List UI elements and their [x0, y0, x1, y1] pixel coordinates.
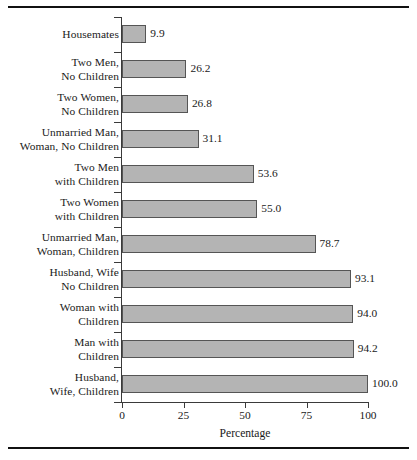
- bar[interactable]: [122, 95, 188, 113]
- category-label: Unmarried Man,Woman, Children: [37, 227, 119, 262]
- y-axis-tick: [114, 52, 121, 53]
- bar-row: Man withChildren94.2: [0, 332, 417, 367]
- bar-track: 100.0: [122, 367, 417, 402]
- bar-value-label: 94.2: [354, 339, 378, 357]
- x-axis-tick: [122, 402, 123, 408]
- bar-value-label: 55.0: [257, 199, 281, 217]
- x-axis-tick-label: 50: [239, 409, 250, 422]
- x-axis-tick: [184, 402, 185, 408]
- category-label-line: Unmarried Man,: [42, 231, 119, 244]
- bar-rows: Housemates9.9Two Men,No Children26.2Two …: [0, 17, 417, 402]
- bar-chart-plot: Housemates9.9Two Men,No Children26.2Two …: [0, 0, 417, 460]
- bar-track: 94.0: [122, 297, 417, 332]
- category-label-line: Husband, Wife: [49, 266, 119, 279]
- bar-row: Husband,Wife, Children100.0: [0, 367, 417, 402]
- category-label-line: Two Men: [74, 161, 119, 174]
- bar-track: 55.0: [122, 192, 417, 227]
- category-label: Woman withChildren: [60, 297, 119, 332]
- x-axis-tick-label: 75: [301, 409, 312, 422]
- x-axis-tick: [245, 402, 246, 408]
- y-axis-tick: [114, 227, 121, 228]
- category-label-line: Woman, No Children: [20, 140, 119, 153]
- bar-track: 31.1: [122, 122, 417, 157]
- bar-value-label: 78.7: [316, 234, 340, 252]
- category-label: Unmarried Man,Woman, No Children: [20, 122, 119, 157]
- category-label: Two Women,No Children: [57, 87, 119, 122]
- bar-value-label: 93.1: [351, 269, 375, 287]
- bar-track: 26.8: [122, 87, 417, 122]
- bar-row: Two Women,No Children26.8: [0, 87, 417, 122]
- bar[interactable]: [122, 235, 316, 253]
- y-axis-tick: [114, 262, 121, 263]
- bar-row: Two Womenwith Children55.0: [0, 192, 417, 227]
- bar-value-label: 26.2: [186, 59, 210, 77]
- bar-row: Husband, WifeNo Children93.1: [0, 262, 417, 297]
- bar-value-label: 9.9: [146, 24, 164, 42]
- y-axis-tick: [114, 17, 121, 18]
- category-label-line: Man with: [74, 336, 119, 349]
- bar-track: 53.6: [122, 157, 417, 192]
- category-label-line: with Children: [55, 175, 119, 188]
- bar-row: Two Men,No Children26.2: [0, 52, 417, 87]
- bar-track: 78.7: [122, 227, 417, 262]
- bar-row: Unmarried Man,Woman, No Children31.1: [0, 122, 417, 157]
- bar[interactable]: [122, 130, 199, 148]
- category-label-line: Woman, Children: [37, 245, 119, 258]
- bar-track: 26.2: [122, 52, 417, 87]
- bar-track: 93.1: [122, 262, 417, 297]
- category-label: Husband, WifeNo Children: [49, 262, 119, 297]
- category-label-line: Children: [78, 315, 119, 328]
- y-axis-tick: [114, 157, 121, 158]
- bar[interactable]: [122, 340, 354, 358]
- category-label: Man withChildren: [74, 332, 119, 367]
- category-label: Housemates: [62, 17, 119, 52]
- y-axis-tick: [114, 332, 121, 333]
- bar-track: 94.2: [122, 332, 417, 367]
- x-axis-tick-label: 100: [359, 409, 376, 422]
- bar[interactable]: [122, 25, 146, 43]
- y-axis-tick: [114, 402, 121, 403]
- bar-row: Two Menwith Children53.6: [0, 157, 417, 192]
- category-label-line: Wife, Children: [50, 385, 119, 398]
- category-label-line: Housemates: [62, 28, 119, 41]
- bar-value-label: 31.1: [199, 129, 223, 147]
- y-axis-tick: [114, 192, 121, 193]
- y-axis-tick: [114, 297, 121, 298]
- bar-value-label: 94.0: [353, 304, 377, 322]
- x-axis-tick: [307, 402, 308, 408]
- category-label-line: No Children: [61, 105, 119, 118]
- category-label-line: No Children: [61, 280, 119, 293]
- bar-row: Unmarried Man,Woman, Children78.7: [0, 227, 417, 262]
- x-axis-label: Percentage: [122, 427, 368, 440]
- bar-row: Woman withChildren94.0: [0, 297, 417, 332]
- category-label-line: Children: [78, 350, 119, 363]
- category-label-line: Husband,: [75, 371, 119, 384]
- x-axis-tick-label: 0: [119, 409, 125, 422]
- category-label-line: Unmarried Man,: [42, 126, 119, 139]
- category-label-line: No Children: [61, 70, 119, 83]
- x-axis-tick-label: 25: [178, 409, 189, 422]
- bar-value-label: 100.0: [368, 374, 398, 392]
- y-axis-tick: [114, 87, 121, 88]
- bar-track: 9.9: [122, 17, 417, 52]
- bar[interactable]: [122, 60, 186, 78]
- category-label: Two Menwith Children: [55, 157, 119, 192]
- bar-value-label: 53.6: [254, 164, 278, 182]
- bar[interactable]: [122, 165, 254, 183]
- bar-value-label: 26.8: [188, 94, 212, 112]
- bar[interactable]: [122, 200, 257, 218]
- category-label-line: with Children: [55, 210, 119, 223]
- category-label: Two Womenwith Children: [55, 192, 119, 227]
- bar[interactable]: [122, 305, 353, 323]
- bar[interactable]: [122, 375, 368, 393]
- category-label: Two Men,No Children: [61, 52, 119, 87]
- x-axis-tick: [368, 402, 369, 408]
- category-label-line: Woman with: [60, 301, 119, 314]
- y-axis-tick: [114, 367, 121, 368]
- category-label-line: Two Women: [60, 196, 119, 209]
- category-label-line: Two Women,: [57, 91, 119, 104]
- bar-row: Housemates9.9: [0, 17, 417, 52]
- y-axis-tick: [114, 122, 121, 123]
- category-label: Husband,Wife, Children: [50, 367, 119, 402]
- bar[interactable]: [122, 270, 351, 288]
